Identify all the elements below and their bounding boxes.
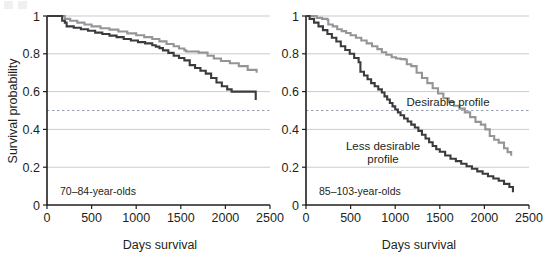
left-ytick-label-5: 1	[33, 10, 40, 24]
less-desirable-profile-label-line1: Less desirable	[346, 140, 420, 152]
right-ytick-label-2: 0.4	[282, 123, 299, 137]
left-xtick-label-4: 2000	[211, 211, 239, 225]
survival-curves-figure: 00.20.40.60.81 05001000150020002500 Surv…	[0, 0, 550, 261]
panel-right: 00.20.40.60.81 05001000150020002500 Days…	[282, 10, 543, 253]
right-xtick-label-4: 2000	[470, 211, 498, 225]
left-xtick-label-5: 2500	[256, 211, 284, 225]
left-xtick-label-0: 0	[44, 211, 51, 225]
right-ytick-label-3: 0.6	[282, 85, 299, 99]
right-axis-ticks	[302, 16, 529, 209]
right-xtick-label-1: 500	[340, 211, 361, 225]
right-panel-label: 85–103-year-olds	[319, 185, 401, 197]
desirable-profile-label: Desirable profile	[406, 96, 489, 108]
left-xtick-label-3: 1500	[167, 211, 195, 225]
left-ytick-label-1: 0.2	[23, 161, 40, 175]
right-ytick-label-4: 0.8	[282, 47, 299, 61]
right-xtick-label-0: 0	[303, 211, 310, 225]
right-xtick-label-5: 2500	[515, 211, 543, 225]
right-ytick-label-0: 0	[292, 199, 299, 213]
right-ytick-label-5: 1	[292, 10, 299, 24]
less-desirable-profile-label-line2: profile	[367, 153, 398, 165]
left-ytick-label-2: 0.4	[23, 123, 40, 137]
left-x-tick-labels: 05001000150020002500	[44, 211, 284, 225]
left-ytick-label-3: 0.6	[23, 85, 40, 99]
left-xtick-label-1: 500	[81, 211, 102, 225]
left-x-axis-title: Days survival	[123, 238, 197, 252]
left-y-axis-title: Survival probability	[6, 58, 20, 164]
left-ytick-label-0: 0	[33, 199, 40, 213]
right-x-axis-title: Days survival	[382, 238, 456, 252]
left-ytick-label-4: 0.8	[23, 47, 40, 61]
right-xtick-label-2: 1000	[381, 211, 409, 225]
left-xtick-label-2: 1000	[122, 211, 150, 225]
right-y-tick-labels: 00.20.40.60.81	[282, 10, 299, 213]
right-x-tick-labels: 05001000150020002500	[303, 211, 543, 225]
right-ytick-label-1: 0.2	[282, 161, 299, 175]
panel-left: 00.20.40.60.81 05001000150020002500 Surv…	[6, 10, 284, 253]
left-y-tick-labels: 00.20.40.60.81	[23, 10, 40, 213]
right-xtick-label-3: 1500	[426, 211, 454, 225]
left-curve-less-desirable-profile	[47, 16, 256, 100]
left-panel-label: 70–84-year-olds	[60, 185, 136, 197]
